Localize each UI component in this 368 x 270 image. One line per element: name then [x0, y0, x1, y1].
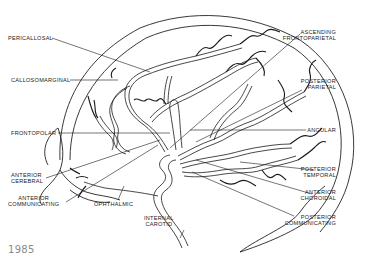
internal-carotid-vessel — [154, 155, 188, 248]
label-posterior-temporal: POSTERIOR TEMPORAL — [301, 166, 336, 179]
label-ascending-frontoparietal: ASCENDING FRONTOPARIETAL — [283, 29, 336, 42]
anterior-cerebral-branches — [88, 29, 280, 154]
label-ophthalmic: OPHTHALMIC — [94, 201, 133, 207]
label-anterior-choroidal: ANTERIOR CHOROIDAL — [300, 189, 336, 202]
label-internal-carotid: INTERNAL CAROTID — [144, 215, 174, 228]
label-frontopolar: FRONTOPOLAR — [11, 130, 56, 136]
caption-year: 1985 — [8, 244, 35, 255]
label-anterior-cerebral: ANTERIOR CEREBRAL — [11, 172, 43, 185]
label-anterior-communicating: ANTERIOR COMMUNICATING — [8, 195, 59, 208]
label-callosomarginal: CALLOSOMARGINAL — [11, 77, 70, 83]
cerebral-arteries-diagram: PERICALLOSAL CALLOSOMARGINAL FRONTOPOLAR… — [0, 0, 368, 270]
anterior-cerebral-vessel — [70, 168, 88, 198]
label-pericallosal: PERICALLOSAL — [8, 35, 53, 41]
label-posterior-parietal: POSTERIOR PARIETAL — [301, 78, 336, 91]
label-angular: ANGULAR — [307, 127, 336, 133]
label-posterior-communicating: POSTERIOR COMMUNICATING — [285, 214, 336, 227]
